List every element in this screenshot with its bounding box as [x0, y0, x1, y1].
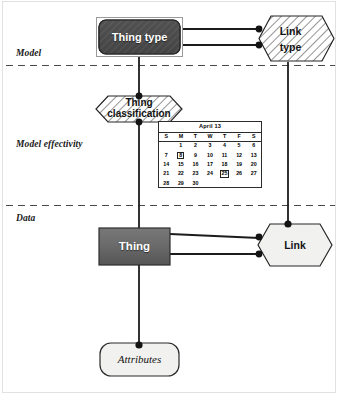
calendar-day[interactable]: 5 [232, 141, 247, 150]
calendar-day[interactable]: 18 [217, 160, 232, 168]
dot-link-upper-left [256, 234, 263, 241]
calendar-day[interactable]: 17 [203, 160, 218, 168]
calendar-widget[interactable]: April 13 SMTWTFS 12345678910111213141516… [158, 121, 262, 188]
calendar-weekday-4: T [217, 133, 232, 142]
calendar-day[interactable]: 24 [203, 169, 218, 179]
calendar-day-selected[interactable]: 25 [217, 169, 232, 179]
dot-attributes-top [135, 341, 142, 348]
calendar-day[interactable]: 12 [232, 150, 247, 160]
diagram-canvas: Model Model effectivity Data Thing type … [0, 0, 341, 398]
edge-thing-link-upper [170, 234, 259, 238]
calendar-day-empty [246, 179, 261, 187]
calendar-day[interactable]: 22 [174, 169, 189, 179]
thing-body [99, 228, 170, 265]
calendar-day-selected[interactable]: 8 [174, 150, 189, 160]
calendar-day[interactable]: 30 [188, 179, 203, 187]
calendar-day[interactable]: 1 [174, 141, 189, 150]
calendar-body: 1234567891011121314151617181920212223242… [159, 141, 261, 187]
calendar-weekday-5: F [232, 133, 247, 142]
calendar-week-row: 282930 [159, 179, 261, 187]
calendar-day[interactable]: 15 [174, 160, 189, 168]
dot-linktype-upper [256, 26, 263, 33]
calendar-week-row: 14151617181920 [159, 160, 261, 168]
calendar-week-row: 21222324252627 [159, 169, 261, 179]
node-thing[interactable] [99, 228, 170, 265]
calendar-day[interactable]: 9 [188, 150, 203, 160]
calendar-day[interactable]: 16 [188, 160, 203, 168]
link-type-body [259, 16, 334, 61]
calendar-weekday-3: W [203, 133, 218, 142]
dot-thingclassification-bottom [136, 119, 143, 126]
node-thing-classification[interactable] [96, 96, 182, 122]
calendar-day[interactable]: 21 [159, 169, 174, 179]
calendar-day[interactable]: 7 [159, 150, 174, 160]
calendar-day-empty [217, 179, 232, 187]
calendar-weekday-0: S [159, 133, 174, 142]
calendar-day-empty [203, 179, 218, 187]
calendar-day[interactable]: 26 [232, 169, 247, 179]
calendar-header-row: SMTWTFS [159, 133, 261, 142]
band-label-data: Data [16, 213, 35, 223]
thing-classification-body [96, 96, 182, 122]
diagram-graphics-layer [0, 0, 341, 398]
thing-type-hatch [99, 20, 180, 54]
calendar-day[interactable]: 13 [246, 150, 261, 160]
calendar-day[interactable]: 2 [188, 141, 203, 150]
dot-linktype-lower [256, 42, 263, 49]
calendar-day[interactable]: 28 [159, 179, 174, 187]
calendar-day[interactable]: 20 [246, 160, 261, 168]
calendar-day-empty [232, 179, 247, 187]
calendar-title: April 13 [159, 122, 261, 133]
calendar-weekday-1: M [174, 133, 189, 142]
calendar-day[interactable]: 3 [203, 141, 218, 150]
dot-link-top [284, 220, 291, 227]
calendar-table: SMTWTFS 12345678910111213141516171819202… [159, 133, 261, 188]
node-link-type[interactable] [259, 16, 334, 61]
calendar-weekday-6: S [246, 133, 261, 142]
calendar-day[interactable]: 11 [217, 150, 232, 160]
link-body [258, 224, 332, 266]
calendar-day[interactable]: 6 [246, 141, 261, 150]
calendar-day-empty [159, 141, 174, 150]
dot-thingclassification-top [136, 93, 143, 100]
calendar-day[interactable]: 10 [203, 150, 218, 160]
calendar-day[interactable]: 23 [188, 169, 203, 179]
node-link[interactable] [258, 224, 332, 266]
calendar-day[interactable]: 27 [246, 169, 261, 179]
calendar-day[interactable]: 29 [174, 179, 189, 187]
calendar-day[interactable]: 4 [217, 141, 232, 150]
calendar-weekday-2: T [188, 133, 203, 142]
calendar-day[interactable]: 19 [232, 160, 247, 168]
node-thing-type[interactable] [97, 18, 183, 57]
band-label-model-effectivity: Model effectivity [16, 139, 83, 149]
calendar-week-row: 123456 [159, 141, 261, 150]
calendar-day[interactable]: 14 [159, 160, 174, 168]
band-label-model: Model [16, 48, 41, 58]
dot-link-lower-left [256, 251, 263, 258]
calendar-week-row: 78910111213 [159, 150, 261, 160]
